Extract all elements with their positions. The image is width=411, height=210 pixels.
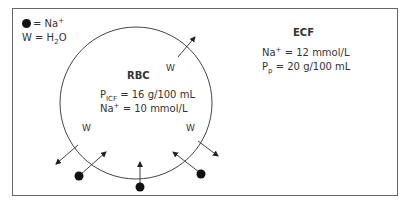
water-arrow-top-right xyxy=(178,37,195,57)
rbc-title: RBC xyxy=(127,70,150,82)
sodium-dot-bottom xyxy=(136,183,145,192)
ecf-sodium: Na+ = 12 mmol/L xyxy=(262,47,349,59)
legend-sodium: = Na+ xyxy=(22,18,64,30)
sodium-dot-right xyxy=(197,170,206,179)
water-label-left: W xyxy=(82,123,91,133)
ecf-title: ECF xyxy=(293,27,314,39)
water-arrow-left xyxy=(56,145,78,164)
ecf-protein: Pp = 20 g/100 mL xyxy=(262,61,350,73)
legend-water: W = H2O xyxy=(22,32,67,44)
water-arrow-right xyxy=(198,141,218,156)
rbc-protein: PICF = 16 g/100 mL xyxy=(100,89,195,101)
sodium-dot-left xyxy=(75,172,84,181)
water-label-top: W xyxy=(166,63,175,73)
water-label-right: W xyxy=(186,123,195,133)
sodium-dot-icon xyxy=(22,19,31,28)
rbc-sodium: Na+ = 10 mmol/L xyxy=(100,103,187,115)
sodium-arrow-right xyxy=(173,152,199,172)
